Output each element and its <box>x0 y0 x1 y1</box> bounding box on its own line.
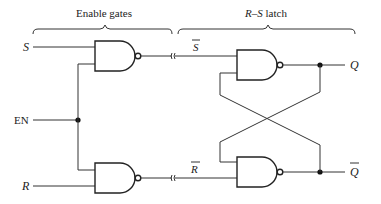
feedback-q-to-bottom <box>220 65 320 162</box>
latch-gate-bottom-nand <box>237 157 283 187</box>
r-bar-wire <box>141 175 237 181</box>
enable-gates-title: Enable gates <box>76 7 132 19</box>
enable-gate-r-nand <box>95 163 141 193</box>
rs-latch-diagram: Enable gates R–S latch R–S latch S EN R … <box>0 0 381 204</box>
en-branch-wire <box>78 64 95 170</box>
feedback-qbar-to-top <box>220 73 320 172</box>
s-bar-label: S <box>193 41 199 53</box>
s-bar-wire <box>141 53 237 59</box>
enable-gates-brace <box>33 25 172 34</box>
output-q-bar-label: Q <box>350 165 359 179</box>
enable-gate-s-nand <box>95 41 141 71</box>
latch-gate-top-nand <box>237 50 283 80</box>
r-bar-label: R <box>190 163 198 175</box>
input-en-label: EN <box>14 114 29 126</box>
input-r-label: R <box>21 179 30 193</box>
latch-brace <box>178 25 355 34</box>
latch-title: R–S latch <box>244 7 287 19</box>
output-q-label: Q <box>350 58 359 72</box>
input-s-label: S <box>23 40 29 54</box>
